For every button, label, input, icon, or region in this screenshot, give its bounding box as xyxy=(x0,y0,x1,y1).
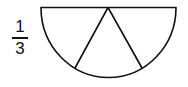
semicircle-outline xyxy=(41,8,176,78)
semicircle-diagram xyxy=(0,0,188,87)
